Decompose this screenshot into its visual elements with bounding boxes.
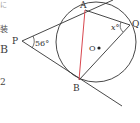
center-dot-O bbox=[97, 46, 100, 49]
tangent-line-PB bbox=[22, 41, 122, 106]
label-P: P bbox=[12, 36, 18, 46]
angle-label-Q: x° bbox=[111, 23, 120, 32]
geometry-figure: P A B Q O 56° x° bbox=[0, 0, 140, 123]
label-O: O bbox=[89, 44, 96, 53]
label-A: A bbox=[79, 0, 87, 10]
angle-arc-Q bbox=[120, 22, 123, 32]
angle-arc-P bbox=[32, 36, 34, 48]
label-B: B bbox=[73, 83, 80, 93]
tangent-line-PA bbox=[22, 0, 113, 41]
angle-label-P: 56° bbox=[35, 39, 49, 48]
label-Q: Q bbox=[132, 19, 139, 29]
chord-AB bbox=[79, 10, 85, 80]
